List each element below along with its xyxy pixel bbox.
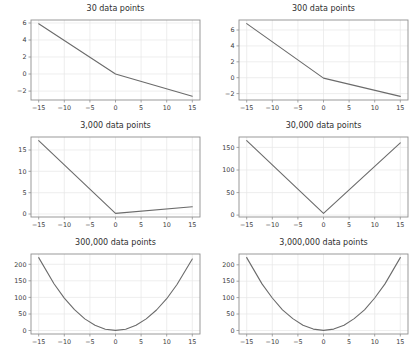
subplot-3000000-data-points: 3,000,000 data points −15−10−50510150501… (208, 234, 417, 351)
subplot-30000-data-points: 30,000 data points −15−10−50510150501001… (208, 117, 417, 234)
x-tick-label: 10 (163, 104, 171, 112)
chart-canvas-30: −15−10−5051015−20246 (0, 0, 208, 117)
x-tick-label: 15 (396, 221, 404, 229)
axes: −15−10−5051015051015 (18, 137, 200, 229)
y-tick-label: 4 (22, 36, 26, 44)
x-tick-label: 15 (188, 104, 196, 112)
subplot-300000-data-points: 300,000 data points −15−10−5051015050100… (0, 234, 208, 351)
x-tick-label: 10 (163, 338, 171, 346)
subplot-30-data-points: 30 data points −15−10−5051015−20246 (0, 0, 208, 117)
y-tick-label: 50 (226, 189, 234, 197)
x-tick-label: −15 (240, 104, 254, 112)
x-tick-label: 15 (188, 221, 196, 229)
x-tick-label: 5 (347, 338, 351, 346)
y-tick-label: 5 (22, 189, 26, 197)
y-tick-label: 15 (18, 146, 26, 154)
x-tick-label: 0 (321, 104, 325, 112)
subplot-3000-data-points: 3,000 data points −15−10−5051015051015 (0, 117, 208, 234)
axes: −15−10−5051015−20246 (17, 19, 200, 111)
y-tick-label: 100 (222, 166, 234, 174)
gridlines (31, 254, 200, 334)
y-tick-label: 0 (230, 211, 234, 219)
x-tick-label: 5 (139, 338, 143, 346)
gridlines (239, 137, 408, 217)
y-tick-label: 50 (226, 310, 234, 318)
y-tick-label: 100 (222, 294, 234, 302)
x-tick-label: −5 (293, 221, 302, 229)
x-tick-label: −15 (240, 221, 254, 229)
y-tick-label: 10 (18, 168, 26, 176)
y-tick-label: 150 (14, 277, 26, 285)
x-tick-label: −10 (58, 104, 72, 112)
y-tick-label: −2 (225, 90, 234, 98)
x-tick-label: 0 (321, 338, 325, 346)
x-tick-label: −5 (293, 338, 302, 346)
x-tick-label: 5 (347, 221, 351, 229)
chart-canvas-3000: −15−10−5051015051015 (0, 117, 208, 234)
x-tick-label: 0 (113, 338, 117, 346)
x-tick-label: −10 (266, 221, 280, 229)
x-tick-label: 0 (321, 221, 325, 229)
x-tick-label: 10 (371, 104, 379, 112)
x-tick-label: 15 (188, 338, 196, 346)
x-tick-label: −5 (293, 104, 302, 112)
x-tick-label: 15 (396, 338, 404, 346)
x-tick-label: −15 (240, 338, 254, 346)
x-tick-label: 15 (396, 104, 404, 112)
x-tick-label: −5 (85, 221, 94, 229)
chart-canvas-300: −15−10−5051015−20246 (208, 0, 417, 117)
y-tick-label: 6 (230, 26, 234, 34)
x-tick-label: −10 (266, 104, 280, 112)
x-tick-label: 5 (347, 104, 351, 112)
x-tick-label: 0 (113, 104, 117, 112)
y-tick-label: 2 (230, 58, 234, 66)
y-tick-label: 0 (22, 210, 26, 218)
x-tick-label: −5 (85, 104, 94, 112)
chart-canvas-3000000: −15−10−5051015050100150200 (208, 234, 417, 351)
y-tick-label: 200 (222, 261, 234, 269)
x-tick-label: −10 (58, 338, 72, 346)
x-tick-label: 10 (371, 221, 379, 229)
axes: −15−10−5051015−20246 (225, 20, 408, 112)
axes: −15−10−5051015050100150200 (222, 254, 408, 346)
x-tick-label: −10 (266, 338, 280, 346)
x-tick-label: 10 (371, 338, 379, 346)
x-tick-label: −15 (32, 104, 46, 112)
y-tick-label: 0 (230, 327, 234, 335)
x-tick-label: 5 (139, 104, 143, 112)
y-tick-label: 100 (14, 294, 26, 302)
subplot-300-data-points: 300 data points −15−10−5051015−20246 (208, 0, 417, 117)
y-tick-label: 6 (22, 19, 26, 27)
y-tick-label: 50 (18, 310, 26, 318)
gridlines (31, 20, 200, 100)
x-tick-label: 10 (163, 221, 171, 229)
x-tick-label: −5 (85, 338, 94, 346)
x-tick-label: −15 (32, 338, 46, 346)
y-tick-label: −2 (17, 87, 26, 95)
y-tick-label: 4 (230, 42, 234, 50)
subplot-grid: 30 data points −15−10−5051015−20246 300 … (0, 0, 417, 351)
x-tick-label: −15 (32, 221, 46, 229)
y-tick-label: 150 (222, 277, 234, 285)
y-tick-label: 0 (22, 327, 26, 335)
axes: −15−10−5051015050100150200 (14, 254, 200, 346)
gridlines (31, 137, 200, 217)
y-tick-label: 2 (22, 53, 26, 61)
x-tick-label: 0 (113, 221, 117, 229)
gridlines (239, 254, 408, 334)
y-tick-label: 0 (230, 74, 234, 82)
y-tick-label: 0 (22, 70, 26, 78)
x-tick-label: 5 (139, 221, 143, 229)
chart-canvas-30000: −15−10−5051015050100150 (208, 117, 417, 234)
y-tick-label: 200 (14, 261, 26, 269)
chart-canvas-300000: −15−10−5051015050100150200 (0, 234, 208, 351)
x-tick-label: −10 (58, 221, 72, 229)
gridlines (239, 20, 408, 100)
y-tick-label: 150 (222, 144, 234, 152)
